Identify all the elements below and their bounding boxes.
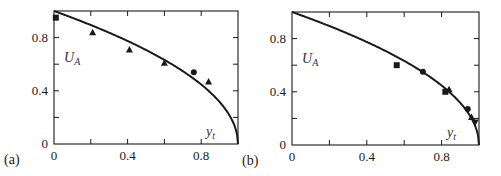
chart-panel-b: 00.40.800.40.8(b)UAyt <box>242 12 479 169</box>
data-point-circle <box>191 69 197 75</box>
data-point-circle <box>420 69 426 75</box>
y-tick-label: 0 <box>280 137 287 152</box>
y-tick-label: 0 <box>42 136 49 151</box>
y-tick-label: 0.4 <box>270 84 287 99</box>
y-tick-label: 0.8 <box>32 30 48 45</box>
data-point-triangle <box>205 78 212 85</box>
data-point-circle <box>465 106 471 112</box>
x-tick-label: 0.8 <box>433 149 449 164</box>
x-axis-label: yt <box>445 125 456 142</box>
y-tick-label: 0.4 <box>32 83 49 98</box>
x-tick-label: 0.4 <box>119 148 136 163</box>
x-tick-label: 0.4 <box>359 149 376 164</box>
y-axis-label: UA <box>302 51 319 68</box>
x-tick-label: 0.8 <box>193 148 209 163</box>
y-axis-label: UA <box>64 50 81 67</box>
data-point-triangle <box>126 46 133 53</box>
panel-label: (a) <box>4 152 20 168</box>
figure: 00.40.800.40.8(a)UAyt00.40.800.40.8(b)UA… <box>0 0 501 176</box>
x-axis-label: yt <box>204 124 215 141</box>
y-tick-label: 0.8 <box>270 31 286 46</box>
x-tick-label: 0 <box>289 149 296 164</box>
data-point-square <box>53 15 59 21</box>
panel-label: (b) <box>242 153 259 169</box>
x-tick-label: 0 <box>51 148 58 163</box>
chart-panel-a: 00.40.800.40.8(a)UAyt <box>4 11 238 168</box>
data-point-triangle <box>89 29 96 35</box>
data-point-square <box>394 62 400 68</box>
